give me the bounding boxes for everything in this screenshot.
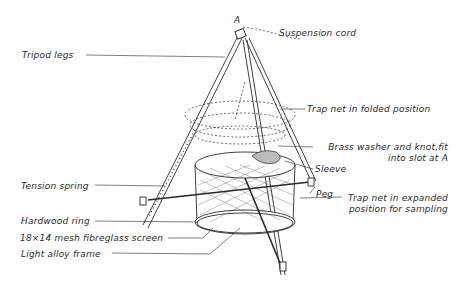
point-a-marker: A [234, 15, 240, 25]
peg-left [140, 197, 146, 205]
label-peg: Peg [316, 189, 333, 199]
label-brass-washer-line2: into slot at A [388, 153, 448, 163]
apex-joint [235, 29, 246, 40]
label-mesh-screen: 18×14 mesh fibreglass screen [20, 233, 163, 243]
label-brass-washer-line1: Brass washer and knot,fit [328, 142, 448, 152]
trap-net-folded [185, 82, 295, 144]
peg-right [308, 178, 314, 186]
label-trap-net-folded: Trap net in folded position [307, 104, 430, 114]
label-hardwood-ring: Hardwood ring [21, 216, 90, 226]
label-sleeve: Sleeve [315, 164, 346, 174]
peg-bottom [280, 262, 286, 271]
label-tension-spring: Tension spring [21, 181, 89, 191]
label-tripod-legs: Tripod legs [22, 50, 73, 60]
label-light-alloy-frame: Light alloy frame [21, 249, 101, 259]
label-trap-net-expanded-line1: Trap net in expanded [348, 193, 448, 203]
label-trap-net-expanded-line2: position for sampling [349, 204, 448, 214]
label-suspension-cord: Suspension cord [279, 28, 356, 38]
